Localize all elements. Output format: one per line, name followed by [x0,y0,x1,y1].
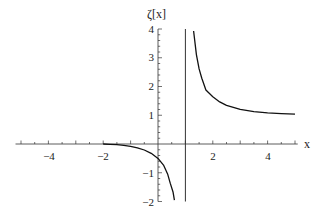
x-tick-label: 2 [210,150,216,162]
plot-area: x ζ[x] −4 −2 2 4 4 3 2 1 −1 −2 [0,0,324,219]
x-tick-label: 4 [265,150,271,162]
y-tick-label: 3 [149,51,155,63]
zeta-curve [103,144,174,200]
x-tick-label: −4 [43,150,55,162]
x-tick-label: −2 [97,150,109,162]
y-tick-label: 1 [149,109,155,121]
zeta-curve [194,31,295,114]
axes [16,29,298,202]
curves [103,31,295,200]
zeta-function-chart: x ζ[x] −4 −2 2 4 4 3 2 1 −1 −2 [0,0,324,219]
y-tick-label: −1 [142,167,154,179]
y-tick-label: −2 [142,196,154,208]
y-tick-label: 2 [149,80,155,92]
y-tick-label: 4 [149,23,155,35]
x-axis-label: x [304,137,310,151]
y-axis-label: ζ[x] [147,7,166,21]
